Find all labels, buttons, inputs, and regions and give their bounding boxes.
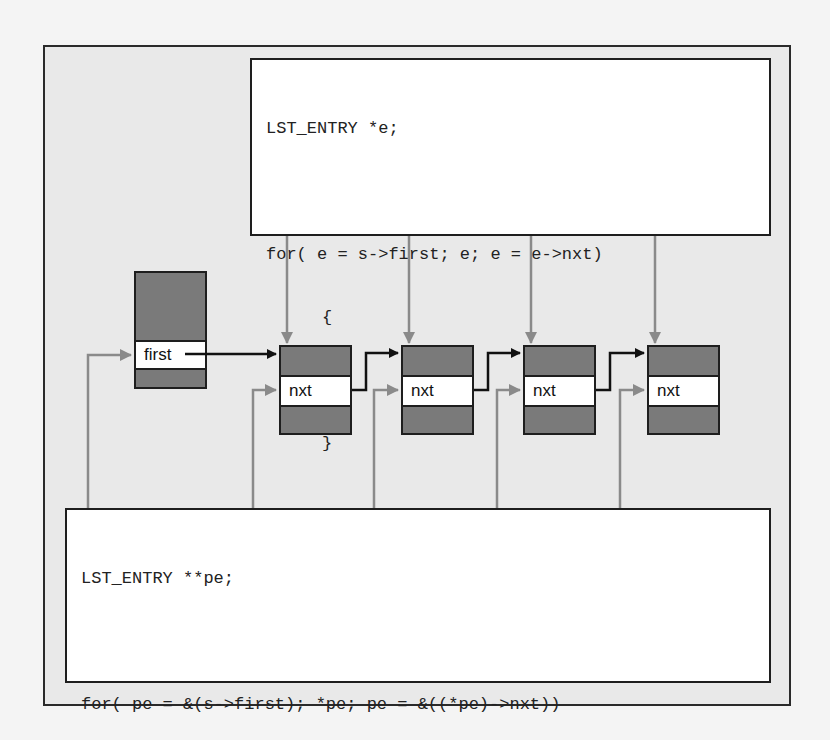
code-line-blank [266,181,769,202]
list-node-4: nxt [647,345,720,435]
code-box-pointer-to-pointer: LST_ENTRY **pe; for( pe = &(s->first); *… [65,508,771,683]
code-line: for( e = s->first; e; e = e->nxt) [266,244,769,265]
code-line: } [266,433,769,454]
code-line: LST_ENTRY **pe; [81,568,769,589]
list-node-1: nxt [279,345,352,435]
nxt-field: nxt [281,375,350,407]
list-node-3: nxt [523,345,596,435]
code-line: { [266,307,769,328]
code-line-blank [81,631,769,652]
first-field: first [136,340,205,370]
code-box-single-pointer: LST_ENTRY *e; for( e = s->first; e; e = … [250,58,771,236]
nxt-field: nxt [525,375,594,407]
list-head-node: first [134,271,207,389]
list-node-2: nxt [401,345,474,435]
nxt-field: nxt [403,375,472,407]
code-line: LST_ENTRY *e; [266,118,769,139]
nxt-field: nxt [649,375,718,407]
code-line: for( pe = &(s->first); *pe; pe = &((*pe)… [81,694,769,715]
